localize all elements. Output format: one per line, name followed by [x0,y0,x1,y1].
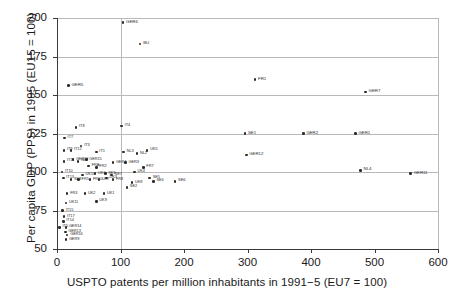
data-point-label: SE2 [130,184,137,188]
data-point [67,84,70,87]
data-point-label: GER5 [71,83,83,87]
data-point-label: IT1 [99,149,104,153]
y-tick-label: 200 [17,12,47,24]
data-point-label: GER3 [129,160,139,164]
y-tick-label: 75 [17,205,47,217]
data-point-label: NL4 [364,167,372,171]
data-point [63,160,66,163]
data-point [62,220,65,223]
data-point-label: UK9 [99,198,106,202]
data-point [65,226,68,229]
data-point [104,172,107,175]
data-point [126,186,129,189]
x-tick-label: 600 [418,257,454,269]
data-point [75,126,78,129]
x-tick-mark [248,249,249,253]
data-point-label: FR1 [258,77,266,81]
data-point-label: FR5 [82,177,89,181]
data-point [61,209,64,212]
x-tick-mark [311,249,312,253]
data-point [254,78,257,81]
gridline-horizontal [57,95,438,96]
data-point [244,132,247,135]
y-axis-line [57,18,58,249]
gridline-horizontal [57,211,438,212]
scatter-chart-figure: Per capita GDP (PPS) in 1995 (EU15 = 100… [0,0,454,300]
data-point-label: UK11 [69,200,78,204]
x-tick-label: 400 [291,257,331,269]
data-point [70,178,73,181]
data-point-label: SE1 [248,131,256,135]
data-point [64,231,67,234]
gridline-horizontal [57,57,438,58]
data-point [124,161,127,164]
data-point-label: GER9 [69,237,79,241]
data-point [63,215,66,218]
data-point-label: SE4 [157,178,164,182]
data-point-label: UK1 [107,191,114,195]
data-point [70,149,73,152]
data-point-label: GER15 [89,157,102,161]
data-point-label: GER2 [306,131,318,135]
plot-frame-right [438,18,439,249]
data-point-label: IT3 [84,143,89,147]
data-point [95,200,98,203]
y-tick-label: 150 [17,89,47,101]
data-point [72,158,75,161]
x-tick-mark [438,249,439,253]
data-point [63,137,66,140]
data-point [122,151,125,154]
data-point-label: UK4 [137,169,144,173]
data-point-label: GER11 [414,171,428,175]
data-point [89,178,92,181]
data-point-label: IT7 [68,135,73,139]
data-point [359,169,362,172]
data-point-label: FR2 [99,164,106,168]
data-point [77,178,80,181]
data-point-label: GER6 [126,20,138,24]
data-point-label: NL3 [127,149,134,153]
data-point [152,180,155,183]
data-point [112,178,115,181]
y-tick-label: 100 [17,166,47,178]
data-point [62,177,65,180]
x-tick-mark [57,249,58,253]
data-point [354,132,357,135]
data-point [66,192,69,195]
data-point [112,161,115,164]
x-tick-mark [184,249,185,253]
data-point [65,238,68,241]
data-point-label: IT4 [125,123,130,127]
data-point [139,43,142,46]
x-axis-label: USPTO patents per million inhabitants in… [0,276,454,288]
y-tick-label: 50 [17,243,47,255]
data-point [409,172,412,175]
x-tick-mark [375,249,376,253]
data-point-label: IT12 [74,147,82,151]
data-point [364,91,367,94]
data-point [95,151,98,154]
y-tick-label: 175 [17,51,47,63]
data-point-label: FR8 [116,177,123,181]
data-point-label: GER12 [249,152,263,156]
data-point [65,202,68,205]
data-point-label: FR3 [70,191,77,195]
x-tick-mark [121,249,122,253]
data-point-label: IT8 [79,124,84,128]
data-point [136,152,139,155]
data-point [103,192,106,195]
data-point-label: GER1 [358,131,370,135]
data-point [146,149,149,152]
data-point [58,226,61,229]
data-point [122,21,125,24]
data-point-label: IT10 [65,169,73,173]
x-tick-label: 500 [355,257,395,269]
data-point-label: FR7 [146,164,153,168]
data-point-label: UK5 [150,147,157,151]
data-point-label: BU [143,41,149,45]
plot-area: 50751001251501752000100200300400500600GE… [57,18,438,249]
data-point-label: GER7 [369,89,381,93]
data-point [120,125,123,128]
data-point [302,132,305,135]
data-point-label: UK2 [88,191,95,195]
